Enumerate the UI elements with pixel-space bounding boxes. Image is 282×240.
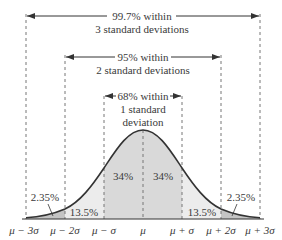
tick-plus-3sigma: μ + 3σ [244, 224, 275, 236]
tick-minus-1sigma: μ − σ [91, 224, 116, 236]
axis-tick-labels: μ − 3σ μ − 2σ μ − σ μ μ + σ μ + 2σ μ + 3… [8, 224, 275, 236]
tick-minus-3sigma: μ − 3σ [8, 224, 39, 236]
span-68-line1: 68% within [117, 90, 169, 102]
label-middle-right: 13.5% [188, 206, 216, 218]
label-outer-left: 2.35% [31, 191, 59, 203]
span-68-line2: 1 standard [120, 103, 166, 115]
label-middle-left: 13.5% [70, 206, 98, 218]
span-997-line1: 99.7% within [112, 10, 172, 22]
tick-minus-2sigma: μ − 2σ [49, 224, 80, 236]
span-997-line2: 3 standard deviations [95, 23, 188, 35]
span-95-line2: 2 standard deviations [96, 64, 189, 76]
label-inner-right: 34% [153, 170, 173, 182]
normal-distribution-diagram: 99.7% within 3 standard deviations 95% w… [0, 0, 282, 240]
label-inner-left: 34% [113, 170, 133, 182]
label-outer-right: 2.35% [227, 191, 255, 203]
tick-plus-1sigma: μ + σ [169, 224, 194, 236]
span-95-line1: 95% within [117, 51, 169, 63]
tick-plus-2sigma: μ + 2σ [205, 224, 236, 236]
tick-mean: μ [139, 224, 146, 236]
span-68-line3: deviation [123, 116, 164, 128]
